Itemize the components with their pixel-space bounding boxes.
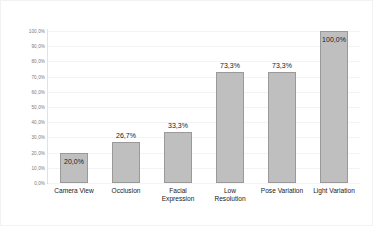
bar-slot: 73,3%: [268, 31, 295, 183]
y-axis-tick-label: 0,0%: [5, 181, 45, 186]
category-label: Low Resolution: [204, 187, 256, 204]
x-axis-category-labels: Camera ViewOcclusionFacial ExpressionLow…: [48, 187, 360, 221]
category-label: Light Variation: [308, 187, 360, 195]
bar[interactable]: 73,3%: [268, 72, 295, 183]
gridline: [48, 137, 360, 138]
bar-slot: 33,3%: [164, 31, 191, 183]
bar-value-label: 73,3%: [272, 62, 292, 69]
category-label: Pose Variation: [256, 187, 308, 195]
bar-slot: 100,0%: [320, 31, 347, 183]
y-axis-tick-label: 60,0%: [5, 89, 45, 94]
y-axis-tick-labels: 100,0%90,0%80,0%70,0%60,0%50,0%40,0%30,0…: [1, 31, 45, 183]
gridline: [48, 168, 360, 169]
y-axis-tick-label: 30,0%: [5, 135, 45, 140]
y-axis-tick-label: 80,0%: [5, 59, 45, 64]
y-axis-tick-label: 50,0%: [5, 105, 45, 110]
bar[interactable]: 73,3%: [216, 72, 243, 183]
bar[interactable]: 20,0%: [60, 153, 87, 183]
category-label: Occlusion: [100, 187, 152, 195]
plot-area: 20,0%26,7%33,3%73,3%73,3%100,0%: [48, 31, 360, 183]
bar-value-label: 20,0%: [64, 158, 84, 165]
bar-slot: 73,3%: [216, 31, 243, 183]
bar-value-label: 33,3%: [168, 122, 188, 129]
bar-value-label: 100,0%: [322, 36, 346, 43]
y-axis-tick-label: 70,0%: [5, 74, 45, 79]
gridline: [48, 153, 360, 154]
y-axis-tick-label: 40,0%: [5, 120, 45, 125]
bar-chart-figure: 100,0%90,0%80,0%70,0%60,0%50,0%40,0%30,0…: [0, 0, 373, 226]
gridline: [48, 77, 360, 78]
bar[interactable]: 100,0%: [320, 31, 347, 183]
gridline: [48, 31, 360, 32]
y-axis-tick-label: 10,0%: [5, 165, 45, 170]
y-axis-tick-label: 90,0%: [5, 44, 45, 49]
gridline: [48, 61, 360, 62]
gridline: [48, 92, 360, 93]
bar-value-label: 73,3%: [220, 62, 240, 69]
gridline: [48, 107, 360, 108]
bar[interactable]: 26,7%: [112, 142, 139, 183]
gridline: [48, 183, 360, 184]
gridline: [48, 122, 360, 123]
category-label: Camera View: [48, 187, 100, 195]
bar-slot: 26,7%: [112, 31, 139, 183]
y-axis-tick-label: 100,0%: [5, 29, 45, 34]
bar-value-label: 26,7%: [116, 132, 136, 139]
bar-slot: 20,0%: [60, 31, 87, 183]
category-label: Facial Expression: [152, 187, 204, 204]
y-axis-tick-label: 20,0%: [5, 150, 45, 155]
bar[interactable]: 33,3%: [164, 132, 191, 183]
gridline: [48, 46, 360, 47]
